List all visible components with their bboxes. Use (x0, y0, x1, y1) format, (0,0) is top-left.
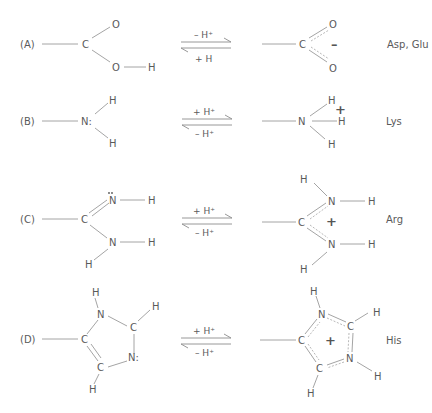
atom-o: O (329, 63, 337, 74)
atom-n-lone-pair: N: (81, 116, 92, 127)
row-label-d: (D) (20, 334, 36, 345)
atom-h: H (152, 301, 160, 312)
residue-name-lys: Lys (386, 116, 402, 127)
atom-n-lone-pair: N (109, 195, 116, 206)
atom-n: N (298, 116, 305, 127)
row-label-c: (C) (20, 214, 35, 225)
atom-h: H (300, 174, 308, 185)
atom-h: H (92, 287, 100, 298)
atom-h: H (373, 307, 381, 318)
forward-condition: – H⁺ (194, 30, 213, 40)
atom-c: C (298, 335, 305, 346)
atom-o: O (112, 62, 120, 73)
atom-c: C (81, 214, 88, 225)
forward-condition: + H⁺ (193, 107, 215, 117)
forward-condition: + H⁺ (193, 206, 215, 216)
atom-n: N (328, 239, 335, 250)
atom-o: O (329, 19, 337, 30)
atom-c: C (316, 363, 323, 374)
atom-n: N (97, 309, 104, 320)
atom-h: H (310, 286, 318, 297)
row-a: (A) C O O H – H⁺ + H C O O – Asp, Glu (20, 19, 429, 74)
atom-n-lone-pair: N: (128, 352, 139, 363)
atom-n: N (109, 237, 116, 248)
atom-h: H (368, 196, 376, 207)
atom-h: H (148, 195, 156, 206)
reverse-condition: – H⁺ (195, 348, 214, 358)
atom-n: N (328, 196, 335, 207)
positive-charge: + (325, 333, 336, 348)
atom-h: H (148, 62, 156, 73)
atom-c: C (299, 39, 306, 50)
row-label-a: (A) (20, 39, 35, 50)
atom-h: H (328, 139, 336, 150)
atom-h: H (85, 259, 93, 270)
atom-h: H (368, 239, 376, 250)
row-c: (C) C N H N H H + H⁺ – H⁺ C N H H (20, 174, 403, 275)
residue-name-his: His (386, 335, 402, 346)
atom-c: C (82, 39, 89, 50)
atom-c: C (97, 362, 104, 373)
atom-h: H (109, 95, 117, 106)
positive-charge: + (335, 102, 346, 117)
atom-c: C (347, 321, 354, 332)
atom-h: H (374, 371, 382, 382)
row-label-b: (B) (20, 116, 35, 127)
reverse-condition: – H⁺ (195, 228, 214, 238)
positive-charge: + (326, 214, 337, 229)
forward-condition: + H⁺ (193, 326, 215, 336)
atom-h: H (307, 388, 315, 399)
atom-n: N (318, 309, 325, 320)
protonation-diagram: (A) C O O H – H⁺ + H C O O – Asp, Glu (B… (0, 0, 432, 413)
atom-o: O (112, 19, 120, 30)
atom-h: H (109, 138, 117, 149)
reverse-condition: + H (195, 54, 212, 64)
negative-charge: – (331, 37, 338, 52)
residue-name-arg: Arg (386, 214, 403, 225)
atom-h: H (300, 264, 308, 275)
atom-c: C (298, 217, 305, 228)
row-d: (D) C N H C H N: C H + H⁺ – H⁺ C N H (20, 286, 402, 399)
residue-name-asp-glu: Asp, Glu (387, 39, 429, 50)
atom-h: H (148, 237, 156, 248)
atom-h: H (338, 116, 346, 127)
atom-c: C (81, 334, 88, 345)
row-b: (B) N: H H + H⁺ – H⁺ N H H H + Lys (20, 95, 402, 150)
atom-h: H (89, 384, 97, 395)
atom-n: N (346, 353, 353, 364)
atom-c: C (130, 322, 137, 333)
reverse-condition: – H⁺ (195, 129, 214, 139)
